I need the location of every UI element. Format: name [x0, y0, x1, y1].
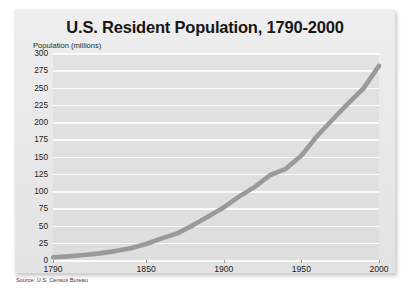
plot-area: 3002752502252001751501251007550250 17901… — [53, 53, 379, 260]
gridline — [53, 260, 379, 262]
x-axis-tick-mark — [379, 260, 380, 263]
y-axis-tick-label: 275 — [34, 65, 48, 75]
x-axis-tick-mark — [146, 260, 147, 263]
y-axis-tick-label: 150 — [34, 152, 48, 162]
y-axis-tick-label: 250 — [34, 83, 48, 93]
y-axis-tick-label: 175 — [34, 134, 48, 144]
y-axis-tick-label: 50 — [39, 221, 48, 231]
x-axis-tick-label: 1950 — [292, 264, 311, 274]
y-axis-tick-label: 300 — [34, 48, 48, 58]
y-axis-tick-label: 100 — [34, 186, 48, 196]
x-axis-tick-mark — [53, 260, 54, 263]
chart-card: U.S. Resident Population, 1790-2000 Popu… — [14, 9, 395, 273]
x-axis-tick-label: 1850 — [137, 264, 156, 274]
y-axis-tick-label: 200 — [34, 117, 48, 127]
chart-figure: U.S. Resident Population, 1790-2000 Popu… — [0, 0, 410, 297]
y-axis-tick-label: 75 — [39, 203, 48, 213]
y-axis-tick-label: 125 — [34, 169, 48, 179]
y-axis-tick-label: 225 — [34, 100, 48, 110]
source-credit: Source: U.S. Census Bureau — [16, 277, 88, 283]
x-axis-tick-label: 1790 — [43, 264, 62, 274]
x-axis-tick-mark — [224, 260, 225, 263]
x-axis-tick-mark — [301, 260, 302, 263]
y-axis-tick-label: 25 — [39, 238, 48, 248]
x-axis-tick-label: 1900 — [214, 264, 233, 274]
chart-title: U.S. Resident Population, 1790-2000 — [15, 18, 395, 37]
x-axis-tick-label: 2000 — [369, 264, 388, 274]
population-line-series — [53, 53, 379, 260]
